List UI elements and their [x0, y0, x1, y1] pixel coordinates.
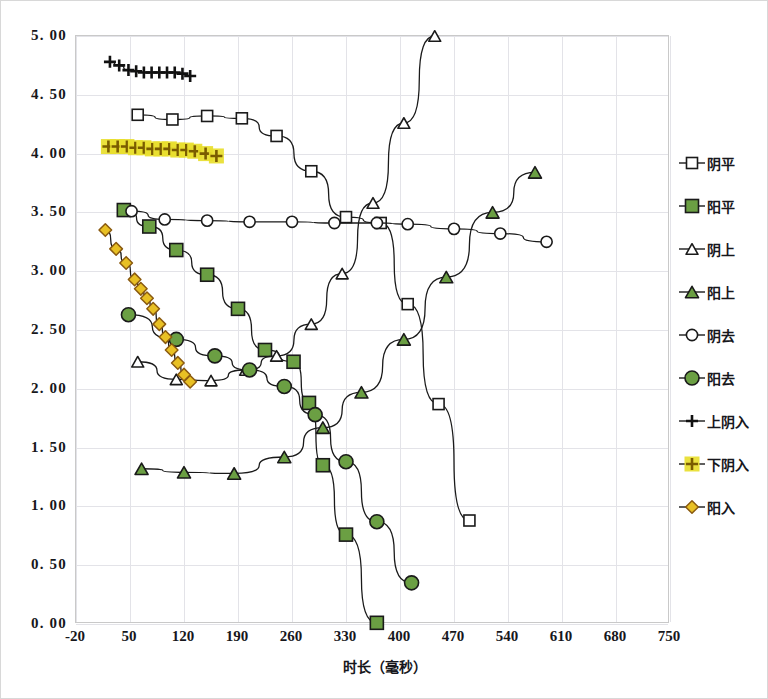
- x-axis-tick-label: 190: [226, 628, 249, 645]
- data-point-square-open: [306, 166, 317, 177]
- data-point-circle-open: [159, 214, 170, 225]
- data-point-square-filled: [201, 268, 214, 281]
- data-point-plus-highlight: [685, 456, 700, 471]
- data-point-circle-open: [202, 215, 213, 226]
- legend-marker-circle-open-icon: [677, 325, 707, 345]
- data-point-triangle-open: [367, 198, 379, 209]
- legend-label: 阴去: [707, 325, 735, 345]
- gridline-vertical: [670, 36, 671, 622]
- data-point-circle-filled: [339, 455, 353, 469]
- x-axis-tick-label: 400: [388, 628, 411, 645]
- data-point-square-open: [687, 157, 698, 168]
- x-axis-tick-label: 120: [172, 628, 195, 645]
- data-point-square-filled: [143, 220, 156, 233]
- x-axis-tick-label: 680: [604, 628, 627, 645]
- data-point-square-open: [464, 515, 475, 526]
- series-阳上: [135, 167, 541, 479]
- data-point-plus: [184, 70, 196, 82]
- y-axis-tick-label: 4. 00: [3, 144, 67, 161]
- legend-item-阴平[interactable]: 阴平: [677, 141, 767, 184]
- data-point-diamond: [686, 500, 699, 513]
- legend-marker-square-filled-icon: [677, 196, 707, 216]
- data-point-circle-open: [495, 228, 506, 239]
- data-point-circle-filled: [208, 349, 222, 363]
- x-axis-tick-label: 260: [280, 628, 303, 645]
- data-point-square-filled: [686, 199, 699, 212]
- data-point-square-open: [402, 299, 413, 310]
- legend-item-阳上[interactable]: 阳上: [677, 270, 767, 313]
- legend-label: 阳去: [707, 368, 735, 388]
- x-axis-title: 时长（毫秒）: [1, 656, 768, 676]
- data-point-square-open: [271, 130, 282, 141]
- x-axis-tick-label: 330: [334, 628, 357, 645]
- data-point-plus: [176, 68, 188, 80]
- data-point-square-filled: [340, 528, 353, 541]
- data-point-diamond: [172, 357, 185, 370]
- data-point-square-open: [202, 110, 213, 121]
- legend-label: 阳上: [707, 282, 735, 302]
- y-axis-tick-label: 0. 00: [3, 615, 67, 632]
- data-point-square-filled: [170, 244, 183, 257]
- data-point-plus-highlight: [209, 148, 224, 163]
- data-point-plus: [686, 415, 698, 427]
- legend-item-阳平[interactable]: 阳平: [677, 184, 767, 227]
- data-point-square-open: [236, 113, 247, 124]
- data-point-circle-open: [126, 206, 137, 217]
- data-point-circle-open: [286, 216, 297, 227]
- data-point-square-filled: [316, 459, 329, 472]
- x-axis-tick-label: 50: [122, 628, 137, 645]
- series-layer: [76, 36, 670, 624]
- data-point-circle-open: [329, 217, 340, 228]
- legend-marker-diamond-icon: [677, 497, 707, 517]
- legend-item-下阴入[interactable]: 下阴入: [677, 442, 767, 485]
- legend-label: 上阴入: [707, 411, 749, 431]
- data-point-square-open: [341, 212, 352, 223]
- data-point-diamond: [153, 318, 166, 331]
- legend-marker-square-open-icon: [677, 153, 707, 173]
- y-axis-tick-label: 1. 00: [3, 497, 67, 514]
- legend-item-阳入[interactable]: 阳入: [677, 485, 767, 528]
- series-阴平: [132, 109, 475, 526]
- legend-item-阳去[interactable]: 阳去: [677, 356, 767, 399]
- series-阴去: [126, 206, 552, 248]
- series-下阴入: [101, 139, 224, 163]
- data-point-triangle-open: [398, 118, 410, 129]
- data-point-circle-filled: [405, 576, 419, 590]
- data-point-square-filled: [370, 616, 383, 629]
- x-axis-tick-label: 470: [442, 628, 465, 645]
- data-point-circle-open: [686, 329, 697, 340]
- data-point-square-open: [167, 114, 178, 125]
- data-point-square-filled: [232, 302, 245, 315]
- data-point-diamond: [147, 303, 160, 316]
- y-axis-tick-label: 3. 50: [3, 203, 67, 220]
- plot-area: [75, 35, 669, 623]
- data-point-circle-filled: [370, 515, 384, 529]
- data-point-triangle-open: [429, 31, 441, 42]
- chart-figure: 0. 000. 501. 001. 502. 002. 503. 003. 50…: [0, 0, 768, 699]
- data-point-circle-filled: [243, 363, 257, 377]
- y-axis-tick-label: 2. 50: [3, 321, 67, 338]
- legend-item-上阴入[interactable]: 上阴入: [677, 399, 767, 442]
- data-point-square-filled: [259, 343, 272, 356]
- y-axis-tick-label: 5. 00: [3, 27, 67, 44]
- data-point-circle-filled: [121, 308, 135, 322]
- series-阳平: [117, 204, 383, 630]
- legend-label: 阴上: [707, 239, 735, 259]
- legend-item-阴去[interactable]: 阴去: [677, 313, 767, 356]
- legend-marker-plus-icon: [677, 411, 707, 431]
- legend-marker-triangle-open-icon: [677, 239, 707, 259]
- y-axis-tick-label: 2. 00: [3, 379, 67, 396]
- data-point-circle-open: [448, 223, 459, 234]
- x-axis-tick-label: 540: [496, 628, 519, 645]
- legend-marker-circle-filled-icon: [677, 368, 707, 388]
- data-point-square-filled: [287, 355, 300, 368]
- data-point-circle-filled: [277, 379, 291, 393]
- data-point-square-open: [433, 399, 444, 410]
- legend-marker-triangle-filled-icon: [677, 282, 707, 302]
- legend-item-阴上[interactable]: 阴上: [677, 227, 767, 270]
- legend-label: 阴平: [707, 153, 735, 173]
- y-axis-tick-label: 4. 50: [3, 85, 67, 102]
- legend-marker-plus-highlight-icon: [677, 454, 707, 474]
- legend-label: 阳入: [707, 497, 735, 517]
- data-point-circle-filled: [685, 371, 699, 385]
